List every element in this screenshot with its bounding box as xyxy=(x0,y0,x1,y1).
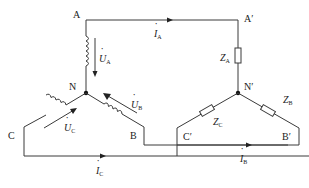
label-zb: ZB xyxy=(283,94,293,106)
label-ua: UA · xyxy=(99,43,111,65)
svg-text:ZB: ZB xyxy=(283,94,293,106)
impedance-za-icon xyxy=(235,48,241,63)
label-ia: IA · xyxy=(153,18,162,40)
current-arrow-ic-icon xyxy=(100,154,106,159)
label-node-b-prime: B′ xyxy=(282,131,291,142)
svg-text:·: · xyxy=(101,43,104,54)
svg-text:UC: UC xyxy=(64,122,75,134)
label-node-c-prime: C′ xyxy=(183,131,192,142)
line-a xyxy=(86,18,238,49)
current-arrow-ia-icon xyxy=(167,18,173,23)
label-uc: UC · xyxy=(64,112,75,134)
source-coil-a xyxy=(86,36,89,93)
svg-text:UA: UA xyxy=(99,53,111,65)
current-arrow-ib-icon xyxy=(246,143,252,148)
svg-text:·: · xyxy=(97,155,100,166)
svg-text:IC: IC xyxy=(95,165,103,177)
svg-text:·: · xyxy=(155,18,158,29)
label-ic: IC · xyxy=(95,155,103,177)
label-node-b: B xyxy=(130,130,137,141)
svg-text:IB: IB xyxy=(239,153,247,165)
label-node-n-prime: N′ xyxy=(244,81,253,92)
label-node-a: A xyxy=(73,9,81,20)
impedance-zc-icon xyxy=(200,105,215,117)
label-node-n: N xyxy=(69,81,76,92)
load-branch-c xyxy=(177,93,238,156)
label-zc: ZC xyxy=(213,116,223,128)
svg-text:ZA: ZA xyxy=(220,52,231,64)
voltage-arrow-ua-icon xyxy=(93,38,98,77)
svg-text:UB: UB xyxy=(131,99,142,111)
svg-text:ZC: ZC xyxy=(213,116,223,128)
impedance-zb-icon xyxy=(261,105,276,117)
voltage-arrow-uc-icon xyxy=(44,108,77,128)
three-phase-circuit-diagram: A N C B A′ N′ C′ B′ UA · UB · UC · IA · … xyxy=(0,0,309,188)
load-branch-b xyxy=(177,93,299,148)
svg-text:·: · xyxy=(133,89,136,100)
svg-text:·: · xyxy=(241,143,244,154)
label-node-a-prime: A′ xyxy=(244,13,253,24)
svg-text:·: · xyxy=(66,112,69,123)
label-ub: UB · xyxy=(131,89,142,111)
svg-text:IA: IA xyxy=(153,28,162,40)
label-node-c: C xyxy=(8,130,15,141)
label-za: ZA xyxy=(220,52,231,64)
